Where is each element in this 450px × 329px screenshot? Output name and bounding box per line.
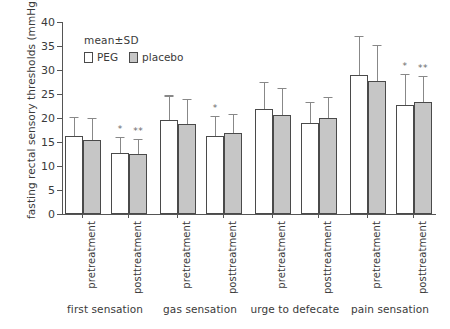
error-bar-cap — [87, 118, 96, 119]
error-bar-cap — [401, 74, 410, 75]
significance-marker: ** — [418, 64, 428, 73]
y-axis-tick-label: 30 — [41, 64, 55, 77]
error-bar-cap — [69, 117, 78, 118]
error-bar — [282, 88, 283, 114]
y-axis-tick-label: 40 — [41, 16, 55, 29]
x-axis-line — [62, 214, 436, 215]
error-bar-cap — [324, 97, 333, 98]
error-bar — [74, 117, 75, 136]
x-axis-label-timepoint: posttreatment — [417, 221, 428, 294]
bar-placebo — [319, 118, 337, 214]
x-axis-label-timepoint: posttreatment — [132, 221, 143, 294]
bar-placebo — [273, 115, 291, 214]
y-axis-tick — [57, 70, 63, 71]
x-axis-label-timepoint: posttreatment — [227, 221, 238, 294]
x-axis-tick — [223, 214, 224, 218]
x-axis-tick — [413, 214, 414, 218]
error-bar — [377, 45, 378, 81]
error-bar — [405, 74, 406, 105]
y-axis-tick — [57, 94, 63, 95]
bar-placebo — [224, 133, 242, 214]
error-bar — [120, 137, 121, 153]
significance-marker: * — [403, 62, 408, 71]
error-bar-cap — [354, 36, 363, 37]
bar-peg — [255, 109, 273, 214]
bar-placebo — [129, 154, 147, 214]
x-axis-group-label: urge to defecate — [251, 303, 340, 315]
significance-marker: * — [213, 104, 218, 113]
bar-chart-figure: fasting rectal sensory thresholds (mmHg)… — [0, 0, 450, 329]
bar-peg — [111, 153, 129, 214]
y-axis-tick-label: 15 — [41, 136, 55, 149]
bar-placebo — [83, 140, 101, 214]
x-axis-tick — [82, 214, 83, 218]
bar-peg — [350, 75, 368, 214]
error-bar — [423, 76, 424, 101]
y-axis-tick — [57, 46, 63, 47]
y-axis-tick-label: 25 — [41, 88, 55, 101]
y-axis-tick-label: 5 — [48, 184, 55, 197]
x-axis-tick — [367, 214, 368, 218]
bar-peg — [160, 120, 178, 214]
error-bar-cap — [419, 76, 428, 77]
x-axis-label-timepoint: pretreatment — [181, 221, 192, 289]
x-axis-label-timepoint: pretreatment — [371, 221, 382, 289]
bar-placebo — [414, 102, 432, 214]
significance-marker: ** — [133, 127, 143, 136]
error-bar-cap — [229, 114, 238, 115]
error-bar — [233, 114, 234, 134]
legend-title: mean±SD — [84, 34, 190, 46]
error-bar — [310, 102, 311, 123]
x-axis-tick — [177, 214, 178, 218]
x-axis-label-timepoint: pretreatment — [276, 221, 287, 289]
error-bar-cap — [134, 139, 143, 140]
error-bar — [138, 139, 139, 154]
error-bar — [215, 116, 216, 137]
error-bar-cap — [306, 102, 315, 103]
bar-peg — [65, 136, 83, 214]
x-axis-tick — [318, 214, 319, 218]
bar-peg — [301, 123, 319, 214]
x-axis-group-label: gas sensation — [163, 303, 237, 315]
legend-swatch-peg — [84, 52, 93, 63]
error-bar-cap — [277, 88, 286, 89]
legend-label-placebo: placebo — [142, 51, 183, 63]
error-bar-cap — [164, 95, 173, 96]
x-axis-group-label: pain sensation — [351, 303, 429, 315]
significance-marker: * — [118, 125, 123, 134]
legend-entries: PEG placebo — [84, 51, 190, 63]
bar-peg — [396, 105, 414, 214]
error-bar — [187, 99, 188, 124]
y-axis-tick-label: 0 — [48, 208, 55, 221]
bar-placebo — [368, 81, 386, 214]
y-axis-tick-label: 35 — [41, 40, 55, 53]
y-axis-tick — [57, 118, 63, 119]
y-axis-tick — [57, 142, 63, 143]
x-axis-label-timepoint: posttreatment — [322, 221, 333, 294]
error-bar — [264, 82, 265, 109]
y-axis-tick — [57, 166, 63, 167]
error-bar — [359, 36, 360, 74]
y-axis-tick — [57, 190, 63, 191]
error-bar-cap — [211, 116, 220, 117]
y-axis-tick — [57, 22, 63, 23]
error-bar-cap — [116, 137, 125, 138]
chart-legend: mean±SD PEG placebo — [84, 34, 190, 63]
bar-peg — [206, 136, 224, 214]
error-bar-cap — [259, 82, 268, 83]
x-axis-tick — [272, 214, 273, 218]
legend-label-peg: PEG — [97, 51, 118, 63]
bar-placebo — [178, 124, 196, 214]
y-axis-tick-label: 20 — [41, 112, 55, 125]
error-bar-cap — [182, 99, 191, 100]
legend-swatch-placebo — [129, 52, 138, 63]
error-bar — [169, 95, 170, 120]
y-axis-tick-label: 10 — [41, 160, 55, 173]
x-axis-tick — [128, 214, 129, 218]
error-bar — [92, 118, 93, 140]
x-axis-group-label: first sensation — [67, 303, 143, 315]
x-axis-label-timepoint: pretreatment — [86, 221, 97, 289]
error-bar-cap — [372, 45, 381, 46]
y-axis-title: fasting rectal sensory thresholds (mmHg) — [25, 9, 37, 219]
error-bar — [328, 97, 329, 118]
